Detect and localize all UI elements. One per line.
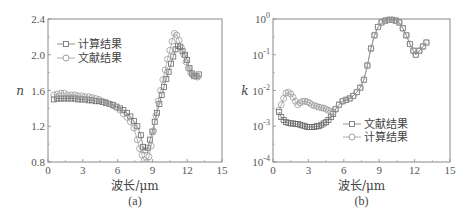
y-tick-label: 2.0 <box>31 49 45 61</box>
chart-panel-a: 03691215 0.81.21.62.02.4 计算结果 文献结果 n 波长/… <box>16 13 228 208</box>
legend-marker-circle <box>349 134 355 140</box>
x-tick-label: 9 <box>150 164 156 176</box>
y-tick-label: 10-1 <box>252 47 270 61</box>
x-tick-label: 15 <box>445 164 457 176</box>
y-tick-label: 0.8 <box>31 156 45 168</box>
series-group-b <box>276 17 430 130</box>
x-tick-label: 12 <box>182 164 193 176</box>
x-tick-label: 3 <box>306 164 312 176</box>
x-tick-label: 0 <box>45 164 51 176</box>
series-group-a <box>51 30 202 165</box>
y-axis-label-a: n <box>16 84 24 98</box>
x-tick-label: 9 <box>376 164 382 176</box>
x-axis-label-b: 波长/μm <box>338 179 386 193</box>
y-tick-label: 100 <box>255 11 270 25</box>
y-tick-base: 10 <box>252 156 264 168</box>
y-tick-exponent: -4 <box>263 154 270 163</box>
legend-label-lit: 文献结果 <box>364 117 408 131</box>
y-tick-exponent: 0 <box>266 11 270 20</box>
y-tick-base: 10 <box>255 13 267 25</box>
x-tick-label: 6 <box>341 164 347 176</box>
x-tick-label: 3 <box>80 164 86 176</box>
y-tick-label: 10-4 <box>252 154 270 168</box>
x-axis-label-a: 波长/μm <box>111 179 159 193</box>
chart-panel-b: 03691215 10-410-310-210-1100 文献结果 计算结果 k… <box>241 11 456 208</box>
x-tick-label: 15 <box>217 164 229 176</box>
legend-marker-circle <box>63 55 69 61</box>
y-tick-label: 1.6 <box>31 85 45 97</box>
series-circles <box>276 17 430 115</box>
legend-marker-square <box>350 122 355 127</box>
legend-label-calc: 计算结果 <box>78 37 122 51</box>
y-tick-label: 1.2 <box>31 120 45 132</box>
legend-label-lit: 文献结果 <box>78 51 122 65</box>
figure: 03691215 0.81.21.62.02.4 计算结果 文献结果 n 波长/… <box>0 0 467 213</box>
y-axis-label-b: k <box>241 84 248 98</box>
y-tick-exponent: -1 <box>263 47 270 56</box>
legend-a: 计算结果 文献结果 <box>57 37 122 65</box>
plot-frame-a <box>48 19 222 162</box>
panel-label-a: (a) <box>128 194 141 208</box>
y-tick-exponent: -2 <box>263 83 270 92</box>
x-tick-label: 12 <box>409 164 420 176</box>
y-tick-base: 10 <box>252 49 264 61</box>
y-tick-base: 10 <box>252 120 264 132</box>
y-tick-label: 10-3 <box>252 118 270 132</box>
y-tick-exponent: -3 <box>263 118 270 127</box>
series-line <box>279 20 427 127</box>
x-tick-label: 6 <box>115 164 121 176</box>
panel-label-b: (b) <box>355 194 369 208</box>
legend-marker-square <box>64 42 69 47</box>
y-tick-label: 10-2 <box>252 83 270 97</box>
legend-label-calc: 计算结果 <box>364 130 408 144</box>
y-tick-label: 2.4 <box>31 13 45 25</box>
x-tick-label: 0 <box>270 164 276 176</box>
y-ticks-b: 10-410-310-210-1100 <box>252 11 276 168</box>
legend-b: 文献结果 计算结果 <box>343 117 408 144</box>
y-tick-base: 10 <box>252 85 264 97</box>
